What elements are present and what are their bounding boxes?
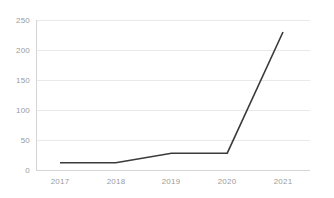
chart-background <box>0 0 334 198</box>
line-chart-figure: 250 200 150 100 50 0 2017 2018 2019 2020… <box>0 0 334 198</box>
y-tick-label-250: 250 <box>16 16 30 25</box>
chart-canvas: 250 200 150 100 50 0 2017 2018 2019 2020… <box>0 0 334 198</box>
y-tick-label-200: 200 <box>16 46 30 55</box>
x-tick-label-2017: 2017 <box>51 177 70 186</box>
x-tick-label-2019: 2019 <box>162 177 181 186</box>
x-tick-label-2020: 2020 <box>218 177 237 186</box>
x-tick-label-2021: 2021 <box>274 177 293 186</box>
y-tick-label-0: 0 <box>25 166 30 175</box>
x-tick-label-2018: 2018 <box>107 177 126 186</box>
y-tick-label-150: 150 <box>16 76 30 85</box>
y-tick-label-100: 100 <box>16 106 30 115</box>
y-tick-label-50: 50 <box>21 136 31 145</box>
